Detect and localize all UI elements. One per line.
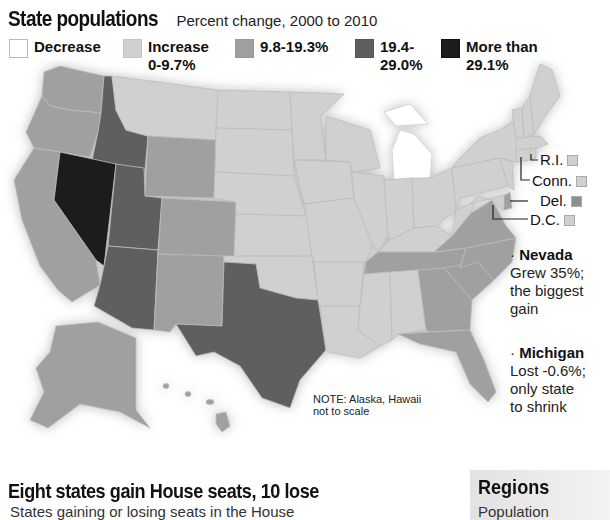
state-south-dakota — [215, 128, 294, 176]
legend-swatch — [441, 39, 460, 58]
state-colorado — [158, 198, 236, 258]
callout-michigan: · Michigan Lost -0.6%; only state to shr… — [510, 344, 586, 416]
state-north-dakota — [216, 90, 292, 130]
state-hawaii-oahu — [185, 392, 191, 397]
state-montana — [112, 76, 218, 140]
map-note: NOTE: Alaska, Hawaii not to scale — [313, 393, 421, 417]
state-michigan — [384, 104, 432, 180]
state-new-mexico — [154, 254, 224, 332]
state-hawaii-kauai — [163, 384, 169, 389]
state-wyoming — [145, 136, 216, 198]
legend-item-decrease: Decrease — [9, 38, 101, 58]
legend-label: 9.8-19.3% — [260, 38, 328, 56]
regions-panel: Regions Population — [470, 470, 610, 520]
swatch-delaware — [571, 196, 582, 207]
label-delaware: Del. — [540, 193, 582, 209]
regions-title: Regions — [478, 475, 549, 499]
swatch-dc — [564, 215, 575, 226]
legend-label: Decrease — [34, 38, 101, 56]
callout-nevada: · Nevada Grew 35%; the biggest gain — [510, 246, 584, 318]
legend-swatch — [355, 39, 374, 58]
legend-swatch — [9, 39, 28, 58]
state-iowa — [294, 160, 354, 204]
regions-subtitle: Population — [478, 503, 549, 520]
state-maine — [530, 64, 560, 134]
page-title: State populations — [8, 6, 158, 32]
state-arkansas — [314, 262, 364, 306]
callout-michigan-name: Michigan — [519, 344, 584, 361]
callout-nevada-name: Nevada — [519, 246, 572, 263]
house-seats-title: Eight states gain House seats, 10 lose — [8, 479, 319, 503]
swatch-connecticut — [576, 176, 587, 187]
legend-label: 19.4- — [380, 38, 423, 56]
label-connecticut: Conn. — [532, 173, 587, 189]
legend-label: Increase — [148, 38, 209, 56]
page-subtitle: Percent change, 2000 to 2010 — [176, 12, 377, 29]
house-seats-subtitle: States gaining or losing seats in the Ho… — [10, 503, 294, 520]
legend-swatch — [235, 39, 254, 58]
label-rhode-island: R.I. — [540, 152, 578, 168]
state-hawaii-maui — [206, 400, 214, 405]
legend-swatch — [123, 39, 142, 58]
legend-label: More than — [466, 38, 538, 56]
state-hawaii-big-island — [216, 412, 230, 432]
swatch-rhode-island — [567, 155, 578, 166]
state-kansas — [234, 214, 312, 258]
header: State populations Percent change, 2000 t… — [8, 6, 377, 32]
legend-item-9-8-19-3: 9.8-19.3% — [235, 38, 328, 58]
label-dc: D.C. — [530, 212, 575, 228]
state-florida — [398, 330, 496, 402]
state-alaska — [30, 322, 150, 428]
